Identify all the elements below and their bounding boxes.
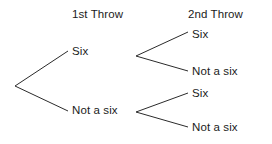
node-second-throw-not-a-six-then-not-a-six: Not a six <box>192 121 238 134</box>
header-first-throw: 1st Throw <box>72 8 123 21</box>
node-first-throw-six: Six <box>72 45 88 58</box>
edge-root-to-not-a-six <box>15 86 68 111</box>
edge-six-to-not-a-six <box>136 56 188 71</box>
node-second-throw-not-a-six-then-six: Six <box>192 87 208 100</box>
edge-root-to-six <box>15 51 68 86</box>
node-second-throw-six-then-six: Six <box>192 28 208 41</box>
edge-not-a-six-to-six <box>136 93 188 112</box>
probability-tree-diagram: 1st Throw 2nd Throw Six Not a six Six No… <box>0 0 272 144</box>
header-second-throw: 2nd Throw <box>188 8 243 21</box>
edge-not-a-six-to-not-a-six <box>136 112 188 127</box>
node-first-throw-not-a-six: Not a six <box>72 104 118 117</box>
edge-six-to-six <box>136 32 188 56</box>
node-second-throw-six-then-not-a-six: Not a six <box>192 65 238 78</box>
